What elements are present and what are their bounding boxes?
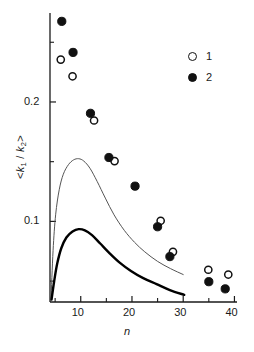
x-axis-ticks <box>55 296 234 302</box>
x-tick-label-30: 30 <box>174 306 186 318</box>
x-tick-label-10: 10 <box>72 306 84 318</box>
open-circle-icon <box>188 52 197 61</box>
x-tick-label-40: 40 <box>225 306 237 318</box>
y-axis-label-text: <k1 / k2> <box>14 135 26 179</box>
legend-label-1: 1 <box>206 51 212 62</box>
y-axis-label: <k1 / k2> <box>14 102 28 212</box>
filled-circle-icon <box>188 73 197 82</box>
y-tick-label-0.1: 0.1 <box>24 214 39 226</box>
legend-item-1: 1 <box>188 51 212 62</box>
x-tick-label-20: 20 <box>123 306 135 318</box>
legend-item-2: 2 <box>188 72 212 83</box>
y-tick-label-0.2: 0.2 <box>24 95 39 107</box>
chart-plot-area <box>0 0 254 352</box>
chart-figure: <k1 / k2> n 0.2 0.1 10 20 30 40 1 2 <box>0 0 254 352</box>
legend-label-2: 2 <box>206 72 212 83</box>
theory-curves <box>51 159 184 300</box>
x-axis-label: n <box>0 325 254 337</box>
series-1-markers <box>57 56 232 278</box>
